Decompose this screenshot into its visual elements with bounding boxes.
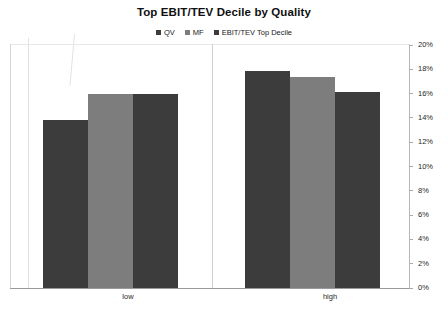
y-axis: 0%2%4%6%8%10%12%14%16%18%20% (409, 36, 448, 298)
y-axis-tick-label: 6% (418, 210, 429, 219)
y-axis-tick-label: 10% (418, 162, 433, 171)
bars-layer (0, 0, 448, 288)
chart-container: Top EBIT/TEV Decile by Quality QV MF EBI… (0, 0, 448, 314)
y-axis-tick-label: 8% (418, 186, 429, 195)
y-axis-tick-label: 4% (418, 234, 429, 243)
x-axis-label-high: high (245, 292, 415, 301)
x-axis-line (10, 288, 410, 289)
y-axis-tick-label: 14% (418, 113, 433, 122)
bar-low-mf[interactable] (88, 94, 133, 288)
y-axis-spine (409, 45, 410, 288)
bar-high-mf[interactable] (290, 77, 335, 288)
y-axis-tick-label: 2% (418, 259, 429, 268)
x-axis-label-low: low (43, 292, 213, 301)
bar-high-qv[interactable] (245, 71, 290, 288)
y-axis-tick-label: 20% (418, 40, 433, 49)
bar-high-ebit-tev-top-decile[interactable] (335, 92, 380, 288)
y-axis-tick-label: 12% (418, 137, 433, 146)
y-axis-tick-label: 18% (418, 64, 433, 73)
bar-low-qv[interactable] (43, 120, 88, 288)
bar-low-ebit-tev-top-decile[interactable] (133, 94, 178, 288)
y-axis-tick-label: 16% (418, 89, 433, 98)
y-axis-tick-label: 0% (418, 283, 429, 292)
